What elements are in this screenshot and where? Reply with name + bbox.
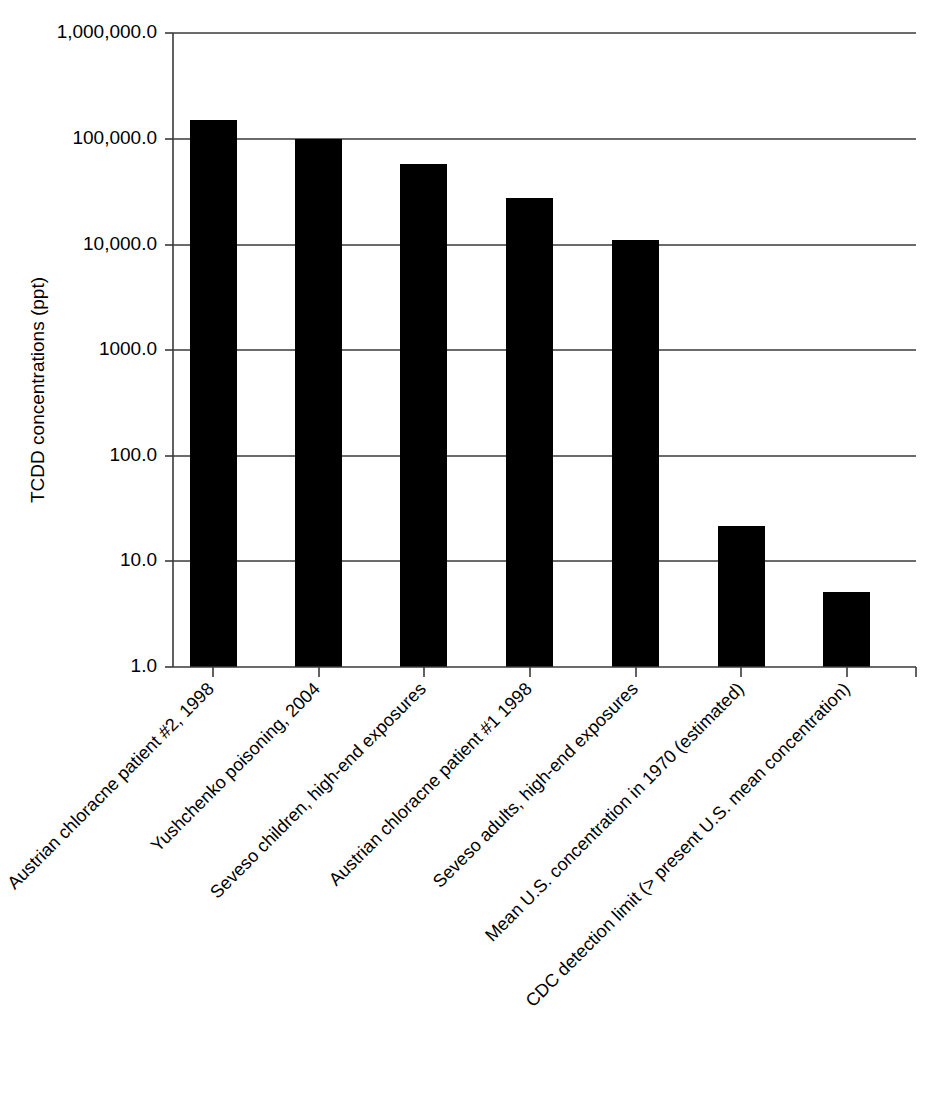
y-tick-label-3: 1000.0 — [99, 338, 157, 359]
bar-0[interactable] — [190, 120, 237, 667]
bar-1[interactable] — [295, 139, 342, 667]
bar-2[interactable] — [400, 164, 447, 667]
y-tick-label-0: 1,000,000.0 — [57, 21, 157, 42]
y-axis-title: TCDD concentrations (ppt) — [27, 277, 48, 503]
bar-4[interactable] — [612, 240, 659, 667]
y-tick-label-4: 100.0 — [109, 444, 157, 465]
bar-5[interactable] — [718, 526, 765, 667]
bar-3[interactable] — [506, 198, 553, 667]
y-tick-label-2: 10,000.0 — [83, 233, 157, 254]
bar-chart-svg: 1,000,000.0 100,000.0 10,000.0 1000.0 10… — [0, 0, 940, 1108]
chart-figure: 1,000,000.0 100,000.0 10,000.0 1000.0 10… — [0, 0, 940, 1108]
bar-6[interactable] — [823, 592, 870, 667]
y-tick-label-6: 1.0 — [131, 655, 157, 676]
y-tick-label-1: 100,000.0 — [72, 127, 157, 148]
y-tick-label-5: 10.0 — [120, 549, 157, 570]
